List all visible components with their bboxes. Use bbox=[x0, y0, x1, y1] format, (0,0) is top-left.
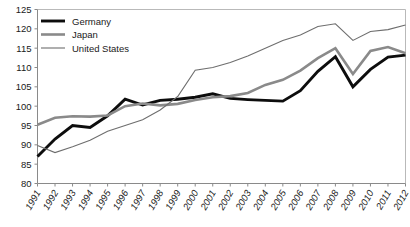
x-tick-label: 2008 bbox=[320, 187, 341, 212]
y-axis-labels: 12512011511010510095908580 bbox=[16, 4, 32, 189]
x-tick-label: 2003 bbox=[232, 187, 253, 212]
y-tick-label: 120 bbox=[16, 23, 32, 34]
x-tick-label: 2000 bbox=[180, 187, 201, 212]
x-tick-label: 1997 bbox=[128, 187, 148, 211]
x-tick-label: 1993 bbox=[58, 187, 78, 211]
chart-canvas: 12512011511010510095908580 1991199219931… bbox=[0, 0, 410, 227]
x-tick-label: 2002 bbox=[215, 187, 236, 212]
x-tick-label: 1998 bbox=[145, 187, 165, 211]
x-tick-label: 1992 bbox=[40, 187, 60, 211]
x-tick-label: 2004 bbox=[250, 188, 271, 213]
x-tick-label: 2010 bbox=[355, 187, 376, 212]
y-tick-label: 90 bbox=[21, 139, 32, 150]
legend-label-united-states: United States bbox=[72, 43, 129, 54]
y-tick-label: 80 bbox=[21, 178, 32, 189]
x-tick-label: 2006 bbox=[285, 187, 306, 212]
x-tick-label: 2009 bbox=[338, 187, 359, 212]
x-tick-label: 2011 bbox=[373, 188, 393, 212]
legend-label-germany: Germany bbox=[72, 16, 111, 27]
x-tick-label: 1996 bbox=[110, 187, 130, 211]
y-tick-label: 85 bbox=[21, 159, 32, 170]
legend-label-japan: Japan bbox=[72, 29, 98, 40]
y-tick-label: 95 bbox=[21, 120, 32, 131]
y-tick-label: 115 bbox=[16, 43, 31, 54]
x-tick-label: 2001 bbox=[197, 188, 218, 213]
y-tick-label: 105 bbox=[16, 81, 32, 92]
y-tick-label: 110 bbox=[16, 62, 31, 73]
y-tick-label: 100 bbox=[16, 101, 32, 112]
x-tick-label: 2012 bbox=[390, 187, 410, 212]
x-tick-label: 1991 bbox=[23, 188, 43, 212]
x-tick-label: 1995 bbox=[93, 187, 113, 211]
x-tick-label: 1999 bbox=[163, 187, 183, 211]
x-tick-label: 2005 bbox=[267, 187, 288, 212]
line-chart: 12512011511010510095908580 1991199219931… bbox=[0, 0, 410, 227]
x-axis-labels: 1991199219931994199519961997199819992000… bbox=[23, 187, 410, 212]
x-tick-label: 2007 bbox=[303, 187, 324, 212]
x-tick-label: 1994 bbox=[75, 188, 95, 212]
y-tick-label: 125 bbox=[16, 4, 32, 15]
